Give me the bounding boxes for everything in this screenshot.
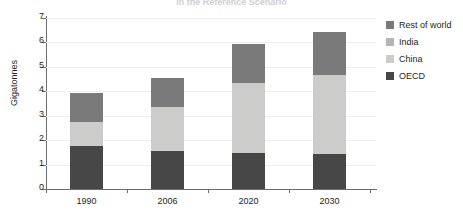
bar-segment-rest-of-world[interactable]: [313, 32, 346, 75]
legend-swatch-icon: [386, 72, 394, 80]
legend-item-oecd[interactable]: OECD: [386, 67, 462, 84]
x-tick-mark: [208, 189, 209, 193]
x-category-label-2020: 2020: [219, 196, 279, 206]
y-tick-label: 0: [28, 182, 44, 192]
bar-segment-oecd[interactable]: [70, 146, 103, 189]
y-tick-label: 1: [28, 158, 44, 168]
x-category-label-2006: 2006: [138, 196, 198, 206]
legend-label: OECD: [399, 71, 425, 81]
legend-swatch-icon: [386, 55, 394, 63]
bar-segment-china[interactable]: [313, 75, 346, 155]
legend-item-china[interactable]: China: [386, 50, 462, 67]
chart-legend: Rest of world India China OECD: [386, 16, 462, 84]
legend-label: India: [399, 37, 419, 47]
y-tick-label: 2: [28, 133, 44, 143]
y-tick-label: 6: [28, 35, 44, 45]
bar-segment-oecd[interactable]: [232, 153, 265, 189]
bar-segment-china[interactable]: [232, 83, 265, 153]
legend-swatch-icon: [386, 38, 394, 46]
bar-segment-oecd[interactable]: [151, 151, 184, 189]
y-tick-label: 5: [28, 60, 44, 70]
legend-label: Rest of world: [399, 20, 452, 30]
y-tick-label: 4: [28, 84, 44, 94]
x-tick-mark: [46, 189, 47, 193]
x-category-label-2030: 2030: [300, 196, 360, 206]
legend-label: China: [399, 54, 423, 64]
gridline: [46, 189, 376, 190]
bar-segment-rest-of-world[interactable]: [151, 78, 184, 107]
chart-title-cropped: in the Reference Scenario: [0, 0, 463, 5]
y-axis-label: Gigatonnes: [9, 43, 19, 123]
bar-group-1990[interactable]: [70, 93, 103, 189]
bar-segment-rest-of-world[interactable]: [232, 44, 265, 82]
x-category-label-1990: 1990: [57, 196, 117, 206]
bar-segment-oecd[interactable]: [313, 154, 346, 189]
legend-item-rest-of-world[interactable]: Rest of world: [386, 16, 462, 33]
x-tick-mark: [370, 189, 371, 193]
plot-area: 7 6 5 4 3 2 1: [46, 18, 376, 189]
y-tick-label: 7: [28, 11, 44, 21]
bar-segment-china[interactable]: [70, 122, 103, 146]
bar-group-2030[interactable]: [313, 32, 346, 189]
x-tick-mark: [289, 189, 290, 193]
bar-group-2006[interactable]: [151, 78, 184, 189]
x-tick-mark: [127, 189, 128, 193]
y-tick-label: 3: [28, 109, 44, 119]
legend-swatch-icon: [386, 21, 394, 29]
stacked-bar-chart: in the Reference Scenario Gigatonnes 7 6…: [0, 0, 463, 218]
bar-segment-rest-of-world[interactable]: [70, 93, 103, 122]
legend-item-india[interactable]: India: [386, 33, 462, 50]
bar-series-container: [46, 18, 376, 189]
bar-segment-china[interactable]: [151, 107, 184, 151]
bar-group-2020[interactable]: [232, 44, 265, 189]
